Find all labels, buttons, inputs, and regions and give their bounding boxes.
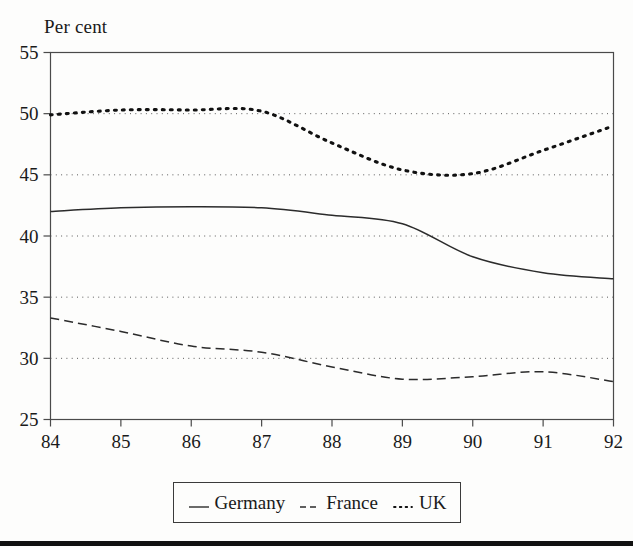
legend-label-germany: Germany xyxy=(215,493,286,512)
y-axis-tick-labels: 25303540455055 xyxy=(20,42,39,430)
x-axis-tick-labels: 848586878889909192 xyxy=(41,431,623,452)
series-line-germany xyxy=(51,207,614,279)
gridlines xyxy=(51,114,614,359)
x-tick-label-92: 92 xyxy=(604,431,623,452)
data-series-group xyxy=(51,108,614,381)
chart-plot-area: 25303540455055 848586878889909192 xyxy=(0,0,633,548)
y-tick-label-30: 30 xyxy=(20,348,39,369)
legend-label-france: France xyxy=(326,493,378,512)
legend-item-uk: UK xyxy=(392,493,446,512)
x-tick-label-91: 91 xyxy=(534,431,553,452)
x-tick-label-90: 90 xyxy=(463,431,482,452)
y-tick-label-55: 55 xyxy=(20,42,39,63)
legend-label-uk: UK xyxy=(419,493,446,512)
series-line-uk xyxy=(51,108,614,175)
figure-canvas: Per cent 25303540455055 8485868788899091… xyxy=(0,0,633,548)
x-tick-label-87: 87 xyxy=(252,431,271,452)
x-tick-label-85: 85 xyxy=(111,431,130,452)
series-line-france xyxy=(51,318,614,382)
dashed-line-swatch xyxy=(299,498,321,508)
dotted-line-swatch xyxy=(392,498,414,508)
y-tick-label-45: 45 xyxy=(20,164,39,185)
x-tick-label-89: 89 xyxy=(393,431,412,452)
legend-item-germany: Germany xyxy=(188,493,286,512)
solid-line-swatch xyxy=(188,498,210,508)
chart-legend: Germany France UK xyxy=(173,482,461,523)
page-bottom-rule xyxy=(0,541,633,546)
y-tick-label-25: 25 xyxy=(20,409,39,430)
y-tick-label-35: 35 xyxy=(20,287,39,308)
x-tick-label-86: 86 xyxy=(182,431,201,452)
x-tick-label-84: 84 xyxy=(41,431,61,452)
axis-ticks xyxy=(44,53,614,427)
y-tick-label-40: 40 xyxy=(20,226,39,247)
x-tick-label-88: 88 xyxy=(323,431,342,452)
y-tick-label-50: 50 xyxy=(20,103,39,124)
legend-item-france: France xyxy=(299,493,378,512)
